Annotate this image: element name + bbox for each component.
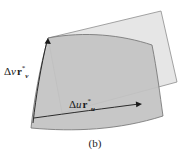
delta-v-vector-label: Δv r*v [4, 66, 28, 77]
u-variable: u [76, 98, 82, 110]
v-variable: v [11, 65, 16, 77]
figure-caption: (b) [0, 137, 190, 149]
delta-u-vector-label: Δu r*u [69, 99, 95, 110]
figure-container: Δv r*v Δu r*u (b) [0, 0, 190, 159]
u-subscript: u [91, 105, 95, 113]
figure-svg [0, 0, 190, 159]
v-subscript: v [25, 72, 28, 80]
